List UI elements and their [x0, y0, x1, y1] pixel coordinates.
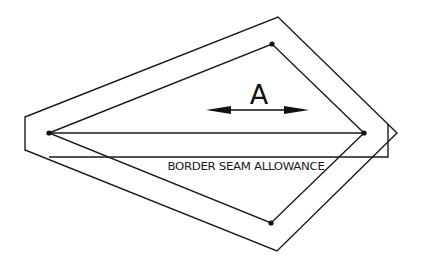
- seam-allowance-label: BORDER SEAM ALLOWANCE: [168, 160, 325, 172]
- vertex-dot-top: [269, 41, 274, 46]
- pattern-diagram: A BORDER SEAM ALLOWANCE: [0, 0, 421, 266]
- arrow-head-right-icon: [284, 106, 309, 114]
- arrow-head-left-icon: [206, 106, 231, 114]
- vertex-dot-bottom: [268, 220, 273, 225]
- outer-seam-outline: [25, 17, 397, 251]
- border-seam-allowance-outline: [49, 124, 388, 157]
- dimension-label: A: [250, 79, 269, 110]
- vertex-dot-right: [361, 130, 366, 135]
- vertex-dot-left: [46, 130, 51, 135]
